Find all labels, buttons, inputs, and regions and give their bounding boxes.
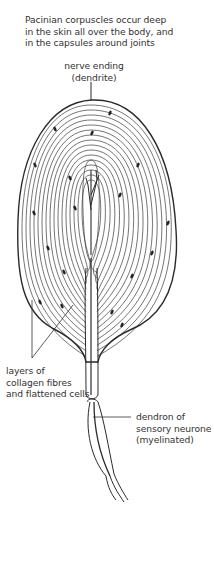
pacinian-corpuscle-diagram: [0, 0, 214, 570]
leader-lines: [32, 300, 131, 417]
